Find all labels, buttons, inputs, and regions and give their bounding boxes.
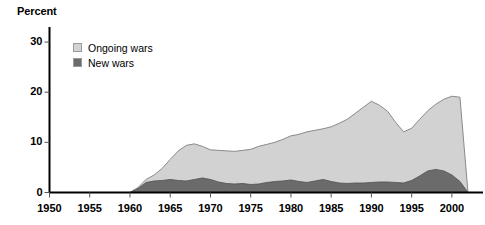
plot-area — [0, 0, 485, 225]
x-tick-label: 1970 — [190, 202, 230, 214]
y-tick-label: 30 — [19, 35, 43, 47]
x-tick-label: 1980 — [271, 202, 311, 214]
y-tick-label: 20 — [19, 85, 43, 97]
x-tick-label: 1975 — [231, 202, 271, 214]
x-tick-label: 1955 — [70, 202, 110, 214]
area-ongoing-wars — [50, 96, 469, 192]
x-tick-label: 1995 — [392, 202, 432, 214]
y-tick-label: 10 — [19, 135, 43, 147]
x-tick-label: 1985 — [311, 202, 351, 214]
percent-wars-area-chart: Percent Ongoing wars New wars 0102030 19… — [0, 0, 485, 225]
x-tick-label: 1990 — [351, 202, 391, 214]
y-tick-label: 0 — [19, 186, 43, 198]
x-tick-label: 1960 — [110, 202, 150, 214]
x-tick-label: 1950 — [30, 202, 70, 214]
x-tick-label: 1965 — [150, 202, 190, 214]
series-layer — [50, 96, 469, 192]
x-tick-label: 2000 — [432, 202, 472, 214]
